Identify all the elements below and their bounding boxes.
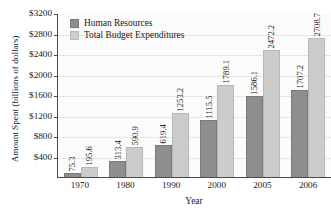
y-axis-tick-labels: $3200$2800$2400$2000$1600$1200$800$400 [8,0,52,215]
bar-group: 1115.51789.1 [200,14,234,177]
legend-swatch-icon [70,19,79,28]
bar [64,173,81,177]
bar [109,161,126,177]
bar-value-label: 195.6 [85,119,94,165]
bar-wrapper: 1789.1 [217,14,234,177]
legend-label: Total Budget Expenditures [84,30,184,40]
x-axis-label: Year [57,196,331,206]
y-tick-label: $1600 [8,91,52,100]
bar-chart: Amount Spent (billions of dollars) $3200… [0,0,331,215]
bar [126,147,143,177]
bar-value-label: 1253.2 [176,65,185,111]
chart-legend: Human ResourcesTotal Budget Expenditures [70,18,184,40]
x-tick-label: 2006 [286,180,330,194]
bar [81,167,98,177]
bar-wrapper: 1707.2 [291,14,308,177]
bar-value-label: 75.3 [68,126,77,172]
y-tick-label: $2800 [8,30,52,39]
bar-value-label: 619.4 [159,98,168,144]
bar-value-label: 1707.2 [295,42,304,88]
legend-label: Human Resources [84,18,152,28]
bar [217,85,234,177]
bar-wrapper: 2708.7 [308,14,325,177]
x-tick-label: 2005 [240,180,284,194]
y-tick-label: $3200 [8,9,52,18]
bar-value-label: 590.9 [130,99,139,145]
bar-value-label: 313.4 [113,113,122,159]
bar-group: 1707.22708.7 [291,14,325,177]
bar-wrapper: 1586.1 [246,14,263,177]
bar-group: 1586.12472.2 [246,14,280,177]
bar-value-label: 2708.7 [312,0,321,37]
legend-swatch-icon [70,31,79,40]
x-tick-label: 1970 [58,180,102,194]
legend-item: Total Budget Expenditures [70,30,184,40]
y-tick-label: $400 [8,153,52,162]
y-tick-label: $800 [8,132,52,141]
bar [172,113,189,177]
bar [200,120,217,177]
bar-value-label: 2472.2 [267,3,276,49]
bar-wrapper: 2472.2 [263,14,280,177]
x-tick-label: 1990 [149,180,193,194]
bar [263,50,280,177]
x-axis-tick-labels: 197019801990200020052006 [57,180,331,194]
bar [246,96,263,177]
y-tick-label: $2400 [8,50,52,59]
bar [155,145,172,177]
bar [291,90,308,177]
y-tick-label: $2000 [8,71,52,80]
bar-value-label: 1789.1 [221,38,230,84]
x-tick-label: 2000 [195,180,239,194]
bar-value-label: 1115.5 [204,72,213,118]
bar [308,38,325,177]
y-tick-label: $1200 [8,112,52,121]
bar-value-label: 1586.1 [250,48,259,94]
bar-wrapper: 1115.5 [200,14,217,177]
legend-item: Human Resources [70,18,184,28]
x-tick-label: 1980 [103,180,147,194]
